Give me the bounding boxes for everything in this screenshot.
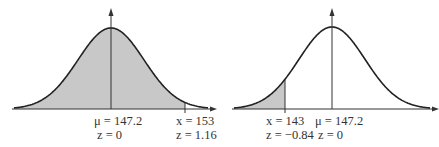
left-shaded-area xyxy=(14,28,185,109)
right-x-arrow-icon xyxy=(432,107,439,112)
right-x-label: x = 143 xyxy=(266,114,304,128)
right-shaded-area xyxy=(234,79,285,109)
left-x-arrow-icon xyxy=(210,107,217,112)
right-x-z-label: z = −0.84 xyxy=(266,128,314,142)
right-y-arrow-icon xyxy=(330,8,335,16)
right-mean-z-label: z = 0 xyxy=(318,128,343,142)
left-y-arrow-icon xyxy=(109,8,114,16)
left-x-z-label: z = 1.16 xyxy=(176,128,217,142)
right-mean-label: μ = 147.2 xyxy=(315,114,363,128)
left-mean-z-label: z = 0 xyxy=(97,128,122,142)
normal-curves xyxy=(0,0,439,147)
left-x-label: x = 153 xyxy=(176,114,214,128)
left-mean-label: μ = 147.2 xyxy=(94,114,142,128)
